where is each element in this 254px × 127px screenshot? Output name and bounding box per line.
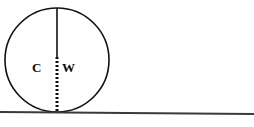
label-c: C <box>32 61 41 74</box>
label-w: W <box>62 61 75 74</box>
ground-line <box>0 112 254 114</box>
geometry-figure: C W <box>0 0 254 127</box>
